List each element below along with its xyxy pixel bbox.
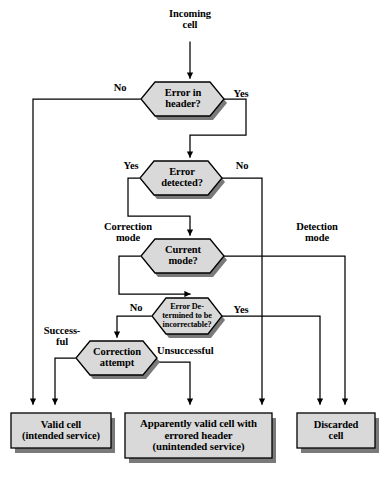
terminal-label-apparently-valid: Apparently valid cell with errored heade… — [125, 418, 272, 453]
edge-label-incorrectable-no: No — [122, 302, 150, 313]
edge-incorrectable-no — [117, 316, 151, 337]
edge-label-successful: Success- ful — [36, 325, 88, 348]
edge-label-detection-mode: Detection mode — [285, 221, 349, 244]
node-label-incorrectable: Error De- termined to be incorrectable? — [154, 302, 220, 330]
edge-label-header-yes: Yes — [226, 88, 256, 99]
edge-incorrectable-yes — [221, 316, 320, 404]
flowchart-canvas: Incoming cell Error in header? Error det… — [0, 0, 389, 477]
terminal-label-valid-cell: Valid cell (intended service) — [11, 419, 111, 442]
node-shadows — [15, 86, 379, 463]
node-label-error-detected: Error detected? — [145, 166, 219, 189]
node-label-correction-attempt: Correction attempt — [82, 346, 152, 369]
edge-label-correction-mode: Correction mode — [95, 221, 161, 244]
edge-successful — [55, 358, 75, 404]
terminal-label-discarded-cell: Discarded cell — [297, 419, 375, 442]
node-label-error-in-header: Error in header? — [146, 87, 220, 110]
edge-label-detected-no: No — [228, 160, 256, 171]
edge-label-incorrectable-yes: Yes — [226, 304, 256, 315]
edge-label-detected-yes: Yes — [116, 160, 146, 171]
edge-label-unsuccessful: Unsuccessful — [157, 345, 237, 356]
node-label-current-mode: Current mode? — [146, 244, 220, 267]
edge-detected-no — [221, 178, 262, 404]
start-label: Incoming cell — [150, 8, 230, 31]
edge-label-header-no: No — [105, 82, 135, 93]
edge-unsuccessful — [160, 362, 190, 404]
edge-detection-mode — [224, 256, 345, 404]
